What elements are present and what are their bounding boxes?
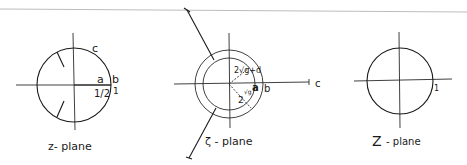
zeta-imag-axis [229, 33, 230, 128]
z-plane-panel: c a b 1/2 1 z- plane [16, 33, 119, 153]
zeta-cut-lower [189, 108, 216, 158]
Z-real-axis [354, 79, 452, 81]
Z-label-one: 1 [434, 84, 439, 93]
zeta-label-outer-radius: 2 [238, 95, 244, 105]
Z-plane-caption-letter: Z [372, 133, 382, 149]
zeta-label-b: b [264, 83, 270, 94]
zeta-real-axis [174, 82, 309, 84]
zeta-cut-upper [187, 10, 214, 60]
zeta-plane-panel: 2√g+d 2 √g a b c ζ - plane [174, 8, 321, 159]
z-cut-upper [57, 52, 64, 67]
z-label-b: b [112, 73, 119, 86]
top-rule [0, 9, 467, 12]
zeta-label-c: c [315, 78, 321, 89]
z-label-half: 1/2 [94, 88, 110, 99]
z-label-one: 1 [113, 86, 119, 96]
z-label-c: c [92, 42, 98, 55]
z-cut-lower [57, 101, 64, 117]
zeta-label-outer-radius-sub: √g [244, 88, 252, 96]
z-plane-caption: z- plane [48, 140, 92, 153]
zeta-label-inner-radius: 2√g+d [234, 66, 261, 75]
conformal-mapping-figure: c a b 1/2 1 z- plane 2√g+d 2 √g a b c ζ … [0, 0, 467, 165]
Z-plane-panel: 1 Z - plane [354, 32, 452, 149]
zeta-plane-caption: ζ - plane [205, 135, 253, 148]
z-label-a: a [97, 73, 104, 86]
zeta-label-a: a [252, 82, 259, 93]
Z-plane-caption-suffix: - plane [386, 136, 421, 147]
